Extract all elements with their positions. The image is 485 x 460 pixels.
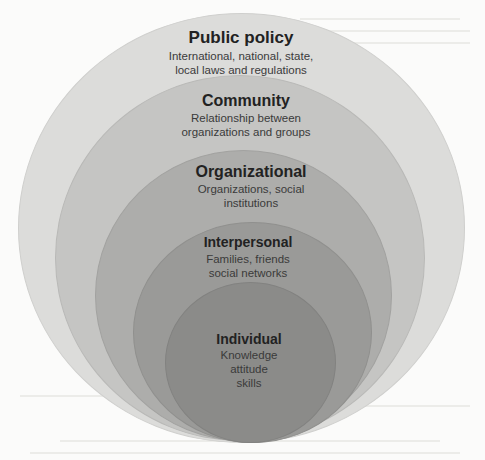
label-public-policy: Public policy International, national, s… xyxy=(169,29,314,77)
level-desc-line: attitude xyxy=(216,362,281,376)
label-interpersonal: Interpersonal Families, friends social n… xyxy=(204,235,293,280)
level-title: Community xyxy=(181,93,310,110)
level-desc-line: Organizations, social xyxy=(195,182,306,196)
level-desc-line: International, national, state, xyxy=(169,49,314,63)
level-desc-line: Families, friends xyxy=(204,252,293,266)
level-desc-line: organizations and groups xyxy=(181,125,310,139)
level-desc-line: Knowledge xyxy=(216,348,281,362)
level-title: Interpersonal xyxy=(204,235,293,250)
level-desc-line: Relationship between xyxy=(181,111,310,125)
level-desc-line: local laws and regulations xyxy=(169,63,314,77)
level-title: Organizational xyxy=(195,164,306,181)
label-individual: Individual Knowledge attitude skills xyxy=(216,332,281,390)
level-title: Public policy xyxy=(169,29,314,47)
label-community: Community Relationship between organizat… xyxy=(181,93,310,139)
level-desc-line: social networks xyxy=(204,266,293,280)
level-title: Individual xyxy=(216,332,281,347)
level-desc-line: institutions xyxy=(195,196,306,210)
level-desc-line: skills xyxy=(216,376,281,390)
label-organizational: Organizational Organizations, social ins… xyxy=(195,164,306,210)
